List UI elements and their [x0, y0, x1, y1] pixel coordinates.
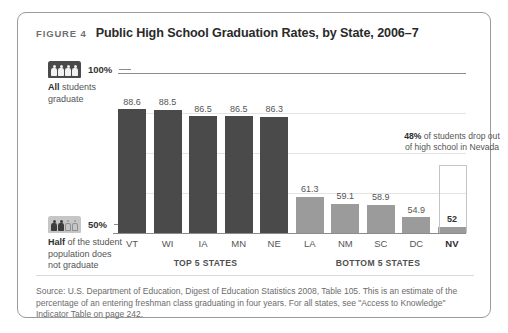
chart-plot-area: 88.688.586.586.586.361.359.158.954.952 — [118, 73, 466, 233]
x-label-mn: MN — [225, 238, 253, 249]
axis-label-100: 100% — [88, 64, 112, 75]
bar-value-label-nm: 59.1 — [337, 191, 355, 201]
annotation-bracket-top — [439, 165, 467, 166]
bar-series: 88.688.586.586.586.361.359.158.954.952 — [118, 73, 466, 233]
figure-header: FIGURE 4 Public High School Graduation R… — [36, 26, 419, 40]
annotation-percent: 48% — [404, 131, 421, 141]
axis-label-50: 50% — [88, 219, 107, 230]
divider — [36, 275, 474, 276]
bar-nm: 59.1 — [331, 73, 359, 233]
legend-caption-bottom: Half of the student population does not … — [48, 237, 126, 272]
legend-caption-bottom-bold: Half — [48, 237, 65, 247]
bar-wi: 88.5 — [154, 73, 182, 233]
x-label-nv: NV — [438, 238, 466, 249]
annotation-bracket-right — [466, 165, 467, 233]
bar-rect-la — [296, 197, 324, 233]
bar-rect-ia — [189, 116, 217, 233]
bar-value-label-vt: 88.6 — [123, 97, 141, 107]
legend-caption-top: All students graduate — [48, 82, 126, 105]
axis-line-baseline — [113, 233, 466, 234]
legend-row-bottom: 50% — [48, 216, 126, 233]
x-label-dc: DC — [402, 238, 430, 249]
x-label-wi: WI — [154, 238, 182, 249]
bar-mn: 86.5 — [225, 73, 253, 233]
bar-value-label-mn: 86.5 — [230, 104, 248, 114]
bar-rect-wi — [154, 110, 182, 233]
bar-value-label-sc: 58.9 — [372, 192, 390, 202]
bar-rect-mn — [225, 116, 253, 233]
bar-value-label-ne: 86.3 — [265, 104, 283, 114]
bar-rect-ne — [260, 117, 288, 233]
bar-rect-nm — [331, 204, 359, 233]
figure-number-label: FIGURE 4 — [36, 28, 87, 39]
four-people-filled-icon — [48, 61, 81, 78]
group-label-bottom5: BOTTOM 5 STATES — [290, 258, 466, 268]
bar-rect-dc — [402, 217, 430, 233]
bar-la: 61.3 — [296, 73, 324, 233]
bar-ia: 86.5 — [189, 73, 217, 233]
bar-dc: 54.9 — [402, 73, 430, 233]
bar-vt: 88.6 — [118, 73, 146, 233]
x-label-la: LA — [296, 238, 324, 249]
bar-value-label-la: 61.3 — [301, 184, 319, 194]
bar-ne: 86.3 — [260, 73, 288, 233]
x-label-sc: SC — [367, 238, 395, 249]
page-title: Public High School Graduation Rates, by … — [96, 26, 419, 40]
figure-card: FIGURE 4 Public High School Graduation R… — [17, 12, 491, 318]
bar-value-label-wi: 88.5 — [159, 97, 177, 107]
x-label-vt: VT — [118, 238, 146, 249]
annotation-bracket-left — [439, 165, 440, 233]
group-label-top5: TOP 5 STATES — [118, 258, 293, 268]
two-filled-two-outline-people-icon — [48, 216, 81, 233]
legend-half-students: 50% Half of the student population does … — [48, 216, 126, 272]
bar-rect-vt — [118, 109, 146, 233]
bar-sc: 58.9 — [367, 73, 395, 233]
bar-nv: 52 — [438, 73, 466, 233]
legend-caption-top-bold: All — [48, 82, 60, 92]
source-note: Source: U.S. Department of Education, Di… — [36, 286, 476, 321]
bar-value-label-dc: 54.9 — [408, 205, 426, 215]
annotation-nevada-dropout: 48% of students drop out of high school … — [402, 131, 502, 153]
x-axis-labels: VTWIIAMNNELANMSCDCNV — [118, 238, 466, 249]
x-label-ne: NE — [260, 238, 288, 249]
x-label-nm: NM — [331, 238, 359, 249]
bar-value-label-ia: 86.5 — [194, 104, 212, 114]
bar-rect-sc — [367, 205, 395, 233]
x-label-ia: IA — [189, 238, 217, 249]
axis-rule-top — [119, 69, 131, 70]
bar-value-label-nv: 52 — [447, 214, 457, 224]
